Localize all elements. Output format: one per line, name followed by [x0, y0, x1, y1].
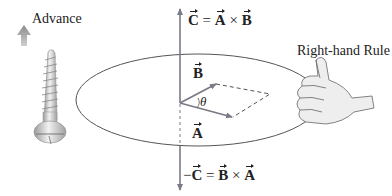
- equation-c-equals-a-cross-b: C = A × B: [188, 13, 252, 28]
- thumbs-up-hand-icon: [297, 57, 374, 124]
- advance-arrow-icon: [17, 25, 31, 46]
- eq-bot-cross: ×: [232, 167, 240, 183]
- eq-bot-lhs: C: [191, 168, 202, 183]
- eq-top-equals: =: [203, 12, 211, 28]
- vector-b: [180, 84, 216, 103]
- theta-label: θ: [200, 95, 206, 108]
- eq-top-a: A: [215, 13, 226, 28]
- eq-top-lhs: C: [188, 13, 199, 28]
- eq-bot-b: A: [244, 168, 255, 183]
- vector-b-label: B: [193, 66, 203, 81]
- advance-label: Advance: [32, 12, 82, 26]
- equation-neg-c-equals-b-cross-a: −C = B × A: [183, 168, 255, 183]
- vector-b-symbol: B: [193, 66, 203, 81]
- vector-a-label: A: [192, 126, 203, 141]
- parallelogram-outline: [216, 84, 270, 117]
- cross-product-diagram: Advance Right-hand Rule B A θ C = A × B …: [0, 0, 392, 196]
- eq-bot-a: B: [218, 168, 228, 183]
- right-hand-rule-label: Right-hand Rule: [297, 44, 390, 58]
- screw-icon: [34, 50, 66, 144]
- vector-a-symbol: A: [192, 126, 203, 141]
- eq-top-cross: ×: [229, 12, 237, 28]
- eq-bot-equals: =: [206, 167, 214, 183]
- angle-arc: [197, 98, 199, 108]
- eq-bot-neg: −: [183, 167, 191, 183]
- eq-top-b: B: [242, 13, 252, 28]
